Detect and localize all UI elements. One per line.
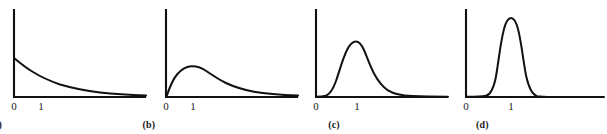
panel-b-density-curve bbox=[167, 66, 299, 97]
density-curves-figure: 0 1 (a) 0 1 (b) 0 1 (c) 0 1 (d) bbox=[0, 0, 607, 134]
panel-d-plot bbox=[452, 0, 607, 112]
panel-b-plot bbox=[152, 0, 304, 112]
panel-d-density-curve bbox=[467, 18, 605, 97]
panel-c: 0 1 (c) bbox=[302, 0, 454, 134]
panel-c-plot bbox=[302, 0, 454, 112]
panel-a-caption: (a) bbox=[0, 119, 72, 130]
panel-a-tick-1: 1 bbox=[34, 100, 48, 112]
panel-c-tick-0: 0 bbox=[309, 100, 323, 112]
panel-a-plot bbox=[0, 0, 152, 112]
panel-a-density-curve bbox=[14, 58, 146, 96]
panel-b-tick-0: 0 bbox=[159, 100, 173, 112]
panel-a-tick-0: 0 bbox=[7, 100, 21, 112]
panel-b: 0 1 (b) bbox=[152, 0, 304, 134]
panel-b-caption: (b) bbox=[73, 119, 225, 130]
panel-a: 0 1 (a) bbox=[0, 0, 152, 134]
panel-c-caption: (c) bbox=[258, 119, 410, 130]
panel-d-tick-1: 1 bbox=[504, 100, 518, 112]
panel-b-tick-1: 1 bbox=[186, 100, 200, 112]
panel-d: 0 1 (d) bbox=[452, 0, 607, 134]
panel-c-density-curve bbox=[317, 42, 449, 97]
panel-c-tick-1: 1 bbox=[350, 100, 364, 112]
panel-d-tick-0: 0 bbox=[459, 100, 473, 112]
panel-d-caption: (d) bbox=[405, 119, 560, 130]
